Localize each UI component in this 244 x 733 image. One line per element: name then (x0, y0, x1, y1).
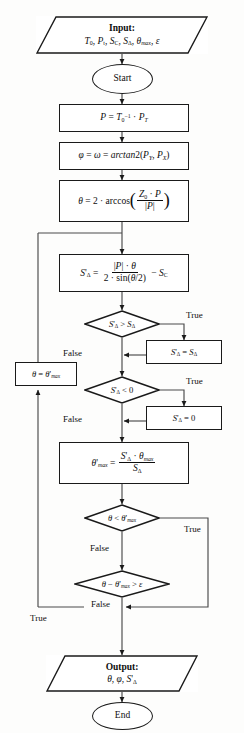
calc-thetamax-formula: θ'max = S'Δ · θmaxSΔ (92, 452, 157, 475)
input-text-block: Input: T0, Pt, SC, SΔ, θmax, ε (36, 23, 208, 46)
node-decision-theta-lt: θ < θ'max (84, 504, 160, 532)
node-calc-p: P = T0−1 · PT (59, 104, 189, 132)
edge-dec2-true (160, 390, 184, 406)
edge-label-true-4: True (30, 613, 47, 623)
output-parameters: θ, φ, S'Δ (107, 674, 137, 685)
edge-label-false-4: False (91, 599, 110, 609)
calc-phi-formula: φ = ω = arctan2(PY, PX) (79, 150, 170, 161)
node-decision-theta-eps: θ − θ'max > ε (74, 570, 170, 598)
flowchart-canvas: Input: T0, Pt, SC, SΔ, θmax, ε Start P =… (0, 0, 244, 733)
node-output: Output: θ, φ, S'Δ (46, 655, 198, 692)
decision-theta-eps-condition: θ − θ'max > ε (74, 579, 170, 589)
node-calc-theta: θ = 2 · arccos(Z0 · P|P|) (59, 180, 189, 222)
node-decision-sdelta-gt: S'Δ > SΔ (84, 310, 160, 338)
decision-sdelta-lt0-condition: S'Δ < 0 (84, 385, 160, 395)
assign-theta-formula: θ = θ'max (32, 369, 60, 379)
calc-theta-formula: θ = 2 · arccos(Z0 · P|P|) (78, 190, 170, 213)
node-assign-theta: θ = θ'max (15, 362, 77, 386)
node-calc-sdelta: S'Δ = |P| · θ2 · sin(θ/2) − SC (59, 254, 189, 292)
edge-label-false-2: False (63, 414, 82, 424)
edge-label-true-3: True (184, 524, 201, 534)
node-input: Input: T0, Pt, SC, SΔ, θmax, ε (36, 16, 208, 54)
edge-label-false-1: False (63, 348, 82, 358)
decision-theta-lt-condition: θ < θ'max (84, 513, 160, 523)
assign-sdelta-max-formula: S'Δ = SΔ (171, 347, 197, 357)
edge-label-false-3: False (90, 543, 109, 553)
edge-dec1-true (160, 324, 184, 340)
node-decision-sdelta-lt0: S'Δ < 0 (84, 376, 160, 404)
output-text-block: Output: θ, φ, S'Δ (46, 662, 198, 685)
decision-sdelta-gt-condition: S'Δ > SΔ (84, 319, 160, 329)
node-end: End (92, 702, 153, 730)
edge-label-true-2: True (186, 376, 203, 386)
output-label: Output: (106, 662, 139, 673)
edge-label-true-1: True (186, 310, 203, 320)
input-label: Input: (109, 23, 135, 34)
calc-p-formula: P = T0−1 · PT (100, 112, 147, 123)
node-assign-sdelta-zero: S'Δ = 0 (146, 406, 222, 430)
node-start: Start (92, 64, 153, 94)
node-assign-sdelta-max: S'Δ = SΔ (146, 340, 222, 364)
node-calc-phi: φ = ω = arctan2(PY, PX) (59, 142, 189, 170)
node-calc-thetamax: θ'max = S'Δ · θmaxSΔ (59, 442, 189, 484)
input-parameters: T0, Pt, SC, SΔ, θmax, ε (85, 36, 160, 47)
assign-sdelta-zero-formula: S'Δ = 0 (173, 413, 196, 423)
calc-sdelta-formula: S'Δ = |P| · θ2 · sin(θ/2) − SC (80, 262, 167, 285)
